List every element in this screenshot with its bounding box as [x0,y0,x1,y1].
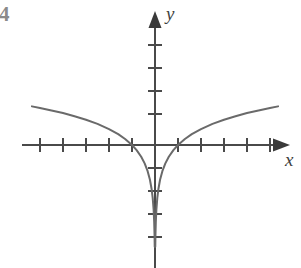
figure-number-label: 4 [0,4,10,25]
figure-container: 4 y x [0,0,301,268]
graph-plot [0,0,301,268]
curve-right-branch [155,106,278,246]
y-axis-label: y [166,4,174,23]
x-axis-label: x [285,150,293,169]
y-axis-arrowhead [149,11,162,28]
curve-left-branch [32,106,155,246]
